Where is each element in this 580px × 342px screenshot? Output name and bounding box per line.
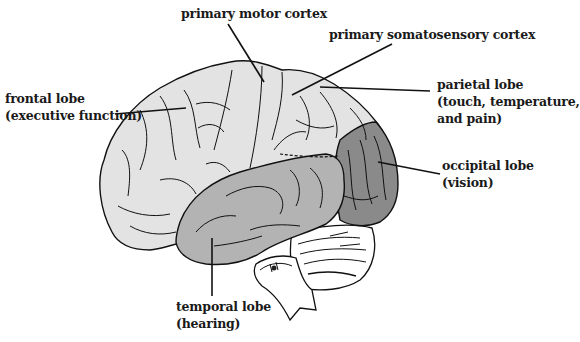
label-occipital-lobe: occipital lobe (vision) [442, 157, 534, 191]
label-temporal-lobe: temporal lobe (hearing) [176, 298, 271, 332]
label-primary-somatosensory-cortex: primary somatosensory cortex [329, 26, 535, 43]
label-primary-motor-cortex: primary motor cortex [181, 5, 327, 22]
label-parietal-lobe: parietal lobe (touch, temperature, and p… [437, 76, 580, 127]
label-frontal-lobe: frontal lobe (executive function) [5, 90, 142, 124]
